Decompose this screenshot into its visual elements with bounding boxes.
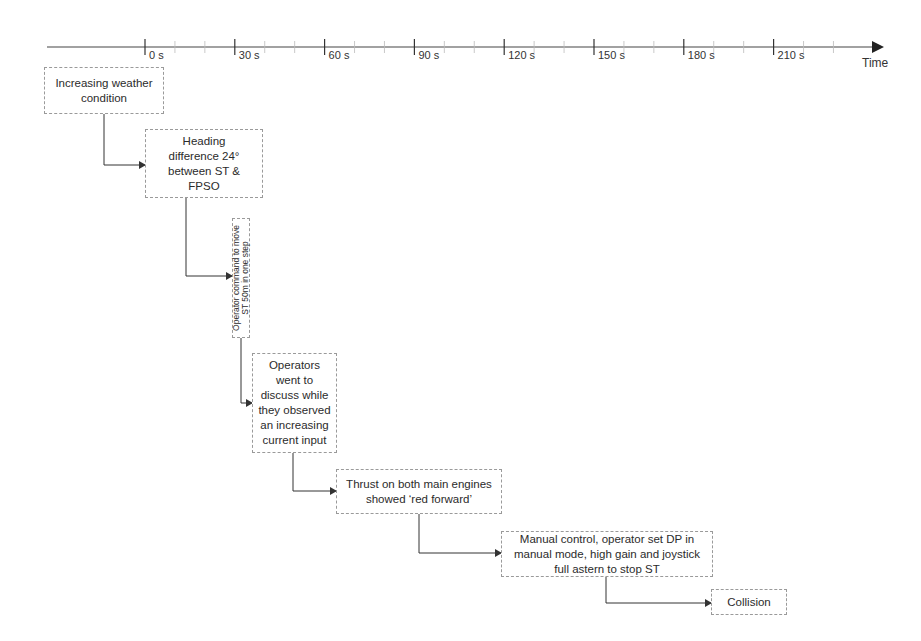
time-axis-label: Time: [862, 56, 888, 70]
tick-label: 210 s: [778, 49, 805, 61]
tick-label: 0 s: [149, 49, 164, 61]
tick-label: 30 s: [239, 49, 260, 61]
event-box-thrust-red-forward: Thrust on both main engines showed ‘red …: [336, 469, 502, 514]
connector-e6-e7: [606, 577, 711, 603]
connector-e1-e2: [104, 114, 145, 165]
connector-e2-e3: [186, 198, 232, 276]
event-text: Operators went to discuss while they obs…: [258, 358, 330, 448]
time-axis-arrowhead: [872, 41, 884, 53]
connector-e3-e4: [241, 338, 252, 403]
event-text: Heading difference 24° between ST & FPSO: [168, 134, 240, 194]
event-text: Operator command to move ST 50m in one s…: [232, 218, 250, 338]
event-box-operators-discuss: Operators went to discuss while they obs…: [252, 353, 337, 453]
tick-label: 180 s: [688, 49, 715, 61]
tick-label: 90 s: [418, 49, 439, 61]
tick-label: 120 s: [508, 49, 535, 61]
event-text: Collision: [727, 595, 770, 610]
connector-e5-e6: [419, 514, 501, 553]
tick-label: 150 s: [598, 49, 625, 61]
event-box-heading-difference: Heading difference 24° between ST & FPSO: [145, 129, 263, 198]
event-text: Manual control, operator set DP in manua…: [514, 532, 700, 577]
event-box-manual-control: Manual control, operator set DP in manua…: [501, 531, 713, 577]
event-box-operator-command: Operator command to move ST 50m in one s…: [232, 218, 250, 338]
event-text: Increasing weather condition: [55, 76, 152, 106]
connector-e4-e5: [293, 453, 336, 491]
event-text: Thrust on both main engines showed ‘red …: [346, 477, 492, 507]
tick-label: 60 s: [329, 49, 350, 61]
event-box-increasing-weather: Increasing weather condition: [44, 67, 164, 114]
event-box-collision: Collision: [711, 589, 787, 615]
